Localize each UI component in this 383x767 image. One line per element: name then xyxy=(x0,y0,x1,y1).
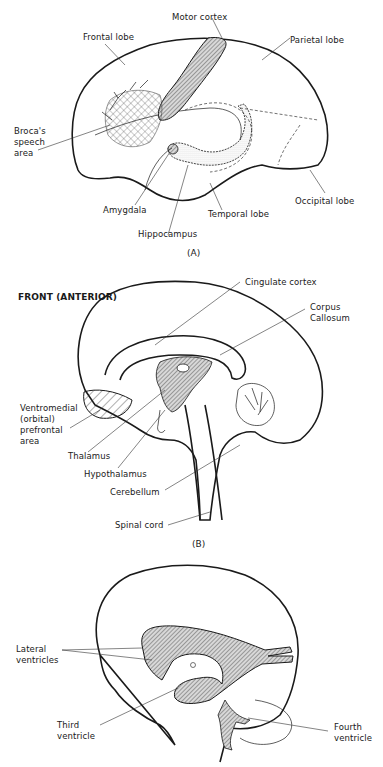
occipital-boundary-2 xyxy=(278,125,300,165)
cerebellum-region xyxy=(236,383,274,425)
hippocampus-region xyxy=(168,104,252,165)
leader-fourth-ventricle xyxy=(248,718,328,731)
label-brocas-line3: area xyxy=(14,148,33,158)
label-lateral-line1: Lateral xyxy=(16,644,46,654)
panel-c-ventricles-brain xyxy=(62,565,328,762)
caption-panel-b: (B) xyxy=(192,539,205,549)
label-thalamus: Thalamus xyxy=(68,451,110,461)
label-vmpfc-line2: (orbital) xyxy=(20,414,55,424)
fourth-ventricle-region xyxy=(218,700,250,750)
pituitary-stalk xyxy=(158,410,165,432)
label-fourth-line1: Fourth xyxy=(334,722,362,732)
leader-frontal-lobe xyxy=(105,44,125,65)
label-occipital-lobe: Occipital lobe xyxy=(295,196,354,206)
label-parietal-lobe: Parietal lobe xyxy=(290,35,344,45)
panel-b-midsagittal-brain xyxy=(70,281,322,525)
label-spinal-cord: Spinal cord xyxy=(115,520,164,530)
massa-intermedia xyxy=(177,364,189,372)
label-lateral-line2: ventricles xyxy=(16,655,59,665)
leader-spinal-cord xyxy=(168,512,210,525)
label-cingulate-cortex: Cingulate cortex xyxy=(245,277,317,287)
leader-occipital-lobe xyxy=(310,170,325,193)
leader-lateral-ventricles-2 xyxy=(62,650,152,660)
motor-cortex-region xyxy=(158,38,226,121)
label-corpus-line2: Callosum xyxy=(310,313,350,323)
label-brocas-line1: Broca's xyxy=(14,126,46,136)
label-corpus-line1: Corpus xyxy=(310,302,340,312)
label-motor-cortex: Motor cortex xyxy=(172,12,227,22)
occipital-boundary xyxy=(240,108,318,120)
label-amygdala: Amygdala xyxy=(103,205,147,215)
leader-cerebellum xyxy=(165,445,240,490)
interventricular-foramen xyxy=(191,663,196,668)
label-fourth-line2: ventricle xyxy=(334,733,372,743)
ventromedial-prefrontal-region xyxy=(84,390,132,418)
leader-brocas xyxy=(38,125,110,150)
label-vmpfc-line3: prefrontal xyxy=(20,425,63,435)
label-hippocampus: Hippocampus xyxy=(138,229,197,239)
label-vmpfc-line1: Ventromedial xyxy=(20,403,78,413)
label-front-anterior: FRONT (ANTERIOR) xyxy=(18,292,117,302)
lateral-ventricle-region xyxy=(142,626,293,704)
label-cerebellum: Cerebellum xyxy=(110,487,160,497)
panel-a-lateral-brain xyxy=(38,18,328,235)
brain-diagram xyxy=(0,0,383,767)
caption-panel-a: (A) xyxy=(187,248,200,258)
label-brocas-line2: speech xyxy=(14,137,45,147)
label-third-line2: ventricle xyxy=(57,731,95,741)
label-vmpfc-line4: area xyxy=(20,436,39,446)
label-hypothalamus: Hypothalamus xyxy=(84,469,147,479)
label-temporal-lobe: Temporal lobe xyxy=(208,209,269,219)
brainstem xyxy=(185,405,222,520)
label-third-line1: Third xyxy=(57,720,79,730)
label-frontal-lobe: Frontal lobe xyxy=(83,32,134,42)
leader-third-ventricle xyxy=(100,688,178,725)
leader-corpus-callosum xyxy=(220,309,305,355)
brocas-area-region xyxy=(105,90,162,146)
leader-lateral-ventricles-1 xyxy=(62,648,142,650)
leader-cingulate-cortex xyxy=(155,282,240,345)
